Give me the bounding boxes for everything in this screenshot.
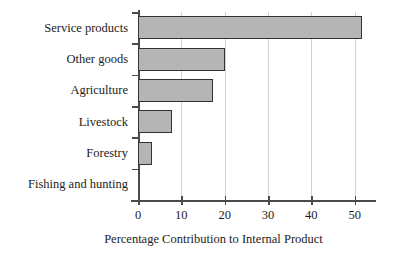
bar bbox=[138, 16, 362, 39]
gridline-30 bbox=[268, 12, 269, 200]
y-axis-tick bbox=[132, 75, 138, 77]
x-axis-tick-label: 50 bbox=[340, 208, 370, 223]
bar bbox=[138, 48, 225, 71]
x-axis-tick-label: 0 bbox=[123, 208, 153, 223]
bar-chart-figure: Service productsOther goodsAgricultureLi… bbox=[0, 0, 397, 259]
y-axis-tick bbox=[132, 106, 138, 108]
y-axis-tick bbox=[132, 43, 138, 45]
x-axis-tick-50 bbox=[355, 196, 357, 205]
plot-area bbox=[138, 12, 372, 200]
x-axis-tick-label: 30 bbox=[253, 208, 283, 223]
x-axis-tick-20 bbox=[225, 196, 227, 205]
x-axis-tick-label: 20 bbox=[210, 208, 240, 223]
gridline-10 bbox=[181, 12, 182, 200]
gridline-20 bbox=[225, 12, 226, 200]
bar bbox=[138, 79, 213, 102]
category-label: Agriculture bbox=[0, 83, 128, 97]
y-axis-category-labels: Service productsOther goodsAgricultureLi… bbox=[0, 12, 133, 200]
bar bbox=[138, 142, 152, 165]
x-axis-tick-label: 10 bbox=[166, 208, 196, 223]
y-axis-tick bbox=[132, 12, 138, 14]
x-axis-tick-30 bbox=[268, 196, 270, 205]
y-axis-tick bbox=[132, 169, 138, 171]
category-label: Service products bbox=[0, 21, 128, 35]
y-axis-tick bbox=[132, 137, 138, 139]
x-axis-tick-40 bbox=[311, 196, 313, 205]
gridline-50 bbox=[355, 12, 356, 200]
x-axis-tick-label: 40 bbox=[296, 208, 326, 223]
x-axis-ticks-and-labels: 01020304050 bbox=[138, 200, 372, 222]
gridline-40 bbox=[311, 12, 312, 200]
bar bbox=[138, 110, 172, 133]
x-axis-tick-10 bbox=[181, 196, 183, 205]
x-axis-title: Percentage Contribution to Internal Prod… bbox=[0, 232, 397, 247]
category-label: Livestock bbox=[0, 115, 128, 129]
category-label: Fishing and hunting bbox=[0, 177, 128, 191]
category-label: Other goods bbox=[0, 52, 128, 66]
x-axis-tick-0 bbox=[138, 196, 140, 205]
category-label: Forestry bbox=[0, 146, 128, 160]
